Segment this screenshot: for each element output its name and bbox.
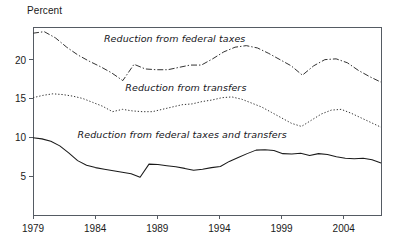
x-axis-ticks [33,215,344,219]
x-tick-label: 1979 [22,223,44,234]
x-tick-label: 1994 [208,223,230,234]
x-tick-label: 2004 [333,223,355,234]
series-line-1 [33,94,381,127]
y-tick-label: 15 [0,93,26,104]
series-label-2: Reduction from federal taxes and transfe… [78,129,287,140]
y-axis-ticks [29,60,33,177]
x-tick-label: 1989 [146,223,168,234]
plot-frame [33,27,381,215]
series-label-0: Reduction from federal taxes [104,33,246,44]
y-tick-label: 10 [0,132,26,143]
plot-border [33,27,381,215]
x-tick-label: 1984 [84,223,106,234]
series-label-1: Reduction from transfers [125,82,246,93]
chart-figure: Percent 5101520 197919841989199419992004… [0,0,393,250]
series-line-2 [33,138,381,178]
y-tick-label: 5 [0,171,26,182]
data-series-group [33,32,381,178]
y-axis-title: Percent [27,5,62,16]
x-tick-label: 1999 [270,223,292,234]
y-tick-label: 20 [0,54,26,65]
